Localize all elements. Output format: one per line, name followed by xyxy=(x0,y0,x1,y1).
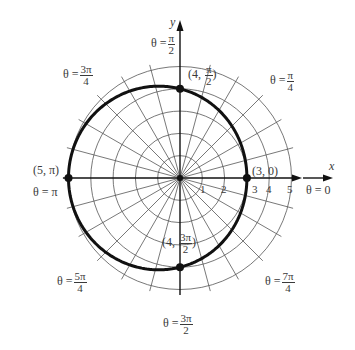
fraction: π4 xyxy=(287,70,295,93)
point-label-4-3pi-over-2: (4, 3π2) xyxy=(162,232,196,255)
denominator: 4 xyxy=(76,283,84,294)
tick-label-1: 1 xyxy=(200,183,206,195)
fraction: π2 xyxy=(205,64,213,87)
tick-label-4: 4 xyxy=(266,183,272,195)
denominator: 2 xyxy=(205,76,213,87)
point-label-4-pi-over-2: (4, π2) xyxy=(188,64,217,87)
angle-label-7pi-over-4: θ =7π4 xyxy=(265,271,295,294)
y-axis-label: y xyxy=(170,16,175,28)
grid-radial-line xyxy=(67,148,180,178)
grid-radial-line xyxy=(67,178,180,208)
label-prefix: (4, xyxy=(188,67,201,81)
x-axis-arrow-icon xyxy=(292,175,302,182)
theta-eq: θ = xyxy=(151,36,167,50)
fraction: 7π4 xyxy=(282,271,295,294)
angle-label-0: θ = 0 xyxy=(306,184,331,196)
angle-label-3pi-over-4: θ =3π4 xyxy=(63,64,93,87)
denominator: 4 xyxy=(287,82,295,93)
theta-eq: θ = xyxy=(57,274,73,288)
denominator: 2 xyxy=(168,45,176,56)
grid-radial-line xyxy=(79,178,180,237)
curve-point-marker xyxy=(176,263,184,271)
tick-label-3: 3 xyxy=(252,183,258,195)
point-label-5-pi: (5, π) xyxy=(33,164,59,176)
denominator: 2 xyxy=(182,325,190,336)
point-label-3-0: (3, 0) xyxy=(252,165,278,177)
label-suffix: ) xyxy=(192,235,196,249)
theta-eq: θ = xyxy=(270,73,286,87)
y-axis-arrow-icon xyxy=(177,20,184,31)
denominator: 4 xyxy=(284,283,292,294)
theta-zero-arrow-icon xyxy=(323,175,333,182)
angle-label-pi-over-4: θ =π4 xyxy=(270,70,294,93)
grid-radial-line xyxy=(79,119,180,178)
angle-label-pi: θ = π xyxy=(33,186,58,198)
fraction: 3π2 xyxy=(180,313,193,336)
label-suffix: ) xyxy=(213,67,217,81)
theta-eq: θ = xyxy=(63,67,79,81)
origin-point xyxy=(177,175,183,181)
label-prefix: (4, xyxy=(162,235,175,249)
angle-label-3pi-over-2: θ =3π2 xyxy=(163,313,193,336)
grid-radial-line xyxy=(150,65,180,178)
fraction: 3π2 xyxy=(179,232,192,255)
grid-radial-line xyxy=(97,95,180,178)
fraction: 5π4 xyxy=(74,271,87,294)
angle-label-5pi-over-4: θ =5π4 xyxy=(57,271,87,294)
curve-point-marker xyxy=(176,85,184,93)
denominator: 2 xyxy=(182,244,190,255)
x-axis-label: x xyxy=(329,160,334,172)
theta-eq: θ = xyxy=(163,316,179,330)
grid-radial-line xyxy=(180,178,293,208)
curve-point-marker xyxy=(243,174,251,182)
fraction: 3π4 xyxy=(80,64,93,87)
tick-label-5: 5 xyxy=(287,183,293,195)
curve-point-marker xyxy=(65,174,73,182)
grid-radial-line xyxy=(180,95,263,178)
angle-label-pi-over-2: θ =π2 xyxy=(151,33,175,56)
tick-label-2: 2 xyxy=(221,183,227,195)
fraction: π2 xyxy=(168,33,176,56)
denominator: 4 xyxy=(82,76,90,87)
theta-eq: θ = xyxy=(265,274,281,288)
